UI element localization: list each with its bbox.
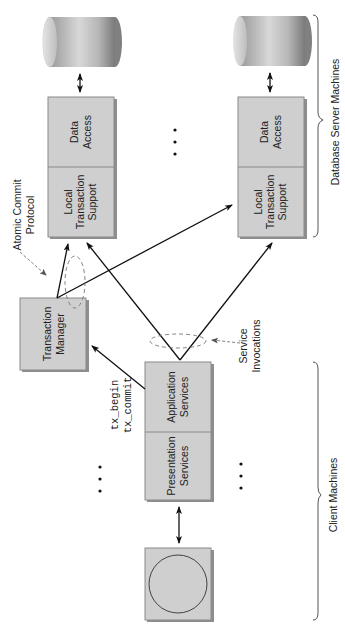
svg-text:Presentation: Presentation <box>165 436 177 495</box>
svg-text:Local: Local <box>252 189 264 214</box>
service-invocations-ellipse <box>150 334 206 348</box>
svg-text:Atomic Commit: Atomic Commit <box>11 179 23 250</box>
database-server-brace <box>313 15 323 237</box>
diagram-canvas: Data Access Local Transaction Support Da… <box>0 0 345 625</box>
server-box-1: Data Access Local Transaction Support <box>48 97 117 239</box>
transaction-manager-box: Transaction Manager <box>20 298 89 372</box>
svg-text:Transaction: Transaction <box>41 307 53 362</box>
svg-text:Client Machines: Client Machines <box>327 458 339 533</box>
svg-text:Data: Data <box>258 121 270 143</box>
atomic-commit-protocol-label: Atomic Commit Protocol <box>11 179 36 250</box>
svg-text:tx_commit: tx_commit <box>122 377 134 434</box>
application-services-label: Application Services <box>165 371 190 423</box>
client-machines-label: Client Machines <box>327 458 339 533</box>
transaction-manager-label: Transaction Manager <box>41 307 66 362</box>
client-terminal <box>145 548 214 622</box>
svg-text:Access: Access <box>81 115 93 149</box>
atomic-commit-pointer <box>20 252 46 275</box>
svg-text:Transaction: Transaction <box>264 175 276 230</box>
svg-text:Local: Local <box>62 189 74 214</box>
database-cylinder-1 <box>43 17 122 67</box>
svg-text:Manager: Manager <box>54 313 66 355</box>
svg-text:Transaction: Transaction <box>74 175 86 230</box>
client-ellipsis-right <box>239 462 242 489</box>
svg-text:Application: Application <box>165 371 177 423</box>
app-to-lts-arrow-1 <box>87 243 180 360</box>
client-ellipsis-left <box>98 465 101 492</box>
svg-text:Support: Support <box>276 184 288 221</box>
svg-text:Data: Data <box>68 121 80 143</box>
svg-text:tx_begin: tx_begin <box>109 380 121 430</box>
server-ellipsis <box>173 128 176 155</box>
svg-text:Access: Access <box>271 115 283 149</box>
client-box: Application Services Presentation Servic… <box>145 362 214 502</box>
service-invocations-pointer <box>212 340 240 343</box>
server-box-2: Data Access Local Transaction Support <box>238 97 307 239</box>
database-cylinder-2 <box>233 16 312 66</box>
database-server-machines-label: Database Server Machines <box>329 59 341 186</box>
svg-text:Services: Services <box>178 377 190 417</box>
svg-text:Service: Service <box>237 328 249 363</box>
svg-text:Invocations: Invocations <box>250 319 262 372</box>
svg-text:Database Server Machines: Database Server Machines <box>329 59 341 186</box>
service-invocations-label: Service Invocations <box>237 319 262 372</box>
svg-text:Protocol: Protocol <box>24 196 36 235</box>
client-machines-brace <box>313 362 321 620</box>
svg-text:Support: Support <box>86 184 98 221</box>
tx-calls-label: tx_begin tx_commit <box>109 377 134 434</box>
svg-text:Services: Services <box>178 446 190 486</box>
